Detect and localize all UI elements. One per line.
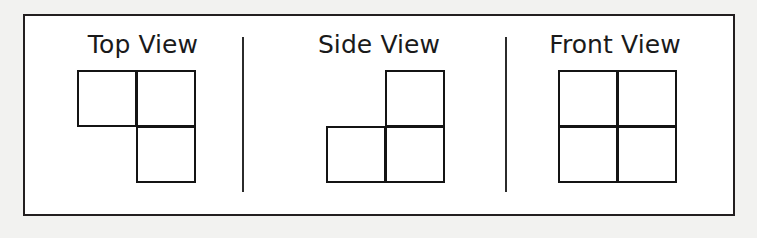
- grid-cell-top-right: [617, 70, 677, 127]
- grid-cell-top-right: [136, 70, 196, 127]
- panel-divider-2: [505, 37, 507, 192]
- panel-top-view: Top View: [25, 16, 261, 214]
- panel-label-side-view: Side View: [318, 32, 440, 57]
- grid-cell-top-left: [77, 70, 137, 127]
- grid-cell-bottom-left: [326, 126, 386, 183]
- grid-front-view: [558, 70, 678, 184]
- grid-cell-bottom-right: [385, 126, 445, 183]
- grid-top-view: [77, 70, 197, 184]
- views-container: Top View Side View Front View: [25, 16, 733, 214]
- grid-cell-bottom-right: [617, 126, 677, 183]
- panel-front-view: Front View: [497, 16, 733, 214]
- panel-label-front-view: Front View: [549, 32, 681, 57]
- grid-cell-top-right: [385, 70, 445, 127]
- grid-cell-bottom-left: [558, 126, 618, 183]
- figure-frame: Top View Side View Front View: [23, 14, 735, 216]
- panel-label-top-view: Top View: [88, 32, 198, 57]
- grid-cell-bottom-right: [136, 126, 196, 183]
- panel-divider-1: [242, 37, 244, 192]
- grid-side-view: [326, 70, 446, 184]
- panel-side-view: Side View: [261, 16, 497, 214]
- grid-cell-top-left: [558, 70, 618, 127]
